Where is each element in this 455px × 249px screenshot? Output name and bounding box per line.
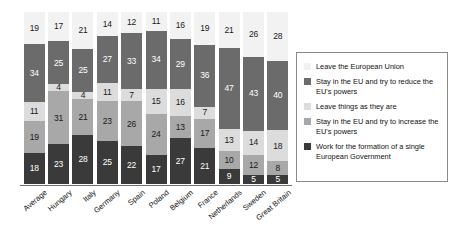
legend-item-label: Stay in the EU and try to increase the E… [316,117,440,137]
bar-segment: 16 [170,12,191,39]
bar-segment-value: 17 [200,129,209,138]
bar-segment: 5 [243,175,264,184]
bar-segment: 12 [121,12,142,33]
x-axis-label: Italy [81,188,97,204]
bar-segment: 22 [121,146,142,184]
bar-segment-value: 4 [81,92,86,99]
bar-segment: 11 [24,102,45,121]
bar-segment-value: 26 [249,30,258,39]
bar-segment: 33 [121,33,142,90]
bar-group: 264314125 [243,12,264,184]
bar-segment: 29 [170,39,191,88]
bar-segment-value: 5 [276,175,281,184]
x-axis-label: Belgium [168,188,195,213]
bar-segment-value: 18 [30,164,39,173]
bar-group: 28401885 [267,12,288,184]
bar-segment: 23 [97,101,118,141]
bar-segment: 16 [170,89,191,116]
bar-segment: 26 [121,101,142,146]
x-axis-label: Germany [92,188,122,215]
bar-segment: 4 [72,92,93,99]
bar-segment-value: 28 [273,32,282,41]
bar-segment-value: 25 [54,59,63,68]
bar-group: 193671721 [194,12,215,184]
bar-segment: 10 [219,151,240,168]
bar-segment: 28 [267,12,288,61]
bar-segment: 43 [243,57,264,131]
bar-segment-value: 27 [176,157,185,166]
bar-segment-value: 14 [103,20,112,29]
x-axis-label: Spain [126,188,147,207]
bar-segment-value: 25 [78,66,87,75]
bar-segment-value: 7 [202,108,207,117]
bar-segment: 28 [72,135,93,184]
legend-item-label: Work for the formation of a single Europ… [316,142,440,162]
legend-item: Work for the formation of a single Europ… [304,142,440,162]
bar-segment-value: 36 [200,71,209,80]
bar-segment: 18 [24,153,45,184]
bar-segment: 25 [97,141,118,184]
bar-segment-value: 17 [151,165,160,174]
bar-segment-value: 21 [200,162,209,171]
bar-segment: 36 [194,45,215,107]
bar-segment-value: 31 [54,114,63,123]
bar-segment-value: 4 [56,84,61,91]
bar-segment: 15 [146,89,167,115]
bar-segment-value: 11 [30,107,38,116]
bar-segment-value: 34 [30,69,39,78]
bar-segment-value: 16 [176,98,185,107]
bar-segment-value: 12 [249,161,258,170]
legend-item: Stay in the EU and try to increase the E… [304,117,440,137]
bar-group: 1629161327 [170,12,191,184]
legend-item-label: Leave the European Union [316,62,404,72]
bar-segment-value: 19 [30,133,39,142]
legend-swatch-increase-powers [304,118,311,125]
bar-group: 123372622 [121,12,142,184]
bar-segment: 27 [170,138,191,184]
bar-segment: 11 [97,83,118,102]
bar-segment-value: 22 [127,161,136,170]
bar-group: 1427112325 [97,12,118,184]
bar-segment-value: 12 [127,18,136,27]
bar-segment: 21 [194,148,215,184]
bar-segment: 47 [219,48,240,129]
bar-segment-value: 26 [127,120,136,129]
bar-segment: 13 [170,116,191,138]
legend-item: Leave the European Union [304,62,440,72]
bar-segment: 21 [219,12,240,48]
bar-segment-value: 43 [249,89,258,98]
bar-group: 1134152417 [146,12,167,184]
bar-segment-value: 21 [78,26,87,35]
bar-segment-value: 33 [127,57,136,66]
bar-segment-value: 19 [200,24,209,33]
bar-segment-value: 11 [103,88,111,97]
plot-area: 1934111918172543123212542128142711232512… [22,12,290,184]
bar-segment: 17 [146,155,167,184]
bar-group: 212542128 [72,12,93,184]
bar-segment-value: 28 [78,155,87,164]
bar-segment-value: 24 [151,130,160,139]
bar-segment-value: 23 [54,160,63,169]
bar-segment-value: 25 [103,158,112,167]
legend-swatch-reduce-powers [304,78,311,85]
legend-swatch-leave-as-is [304,103,311,110]
bar-segment: 40 [267,61,288,130]
bar-segment: 34 [146,31,167,89]
bar-segment: 31 [48,91,69,144]
bar-segment-value: 21 [78,113,87,122]
bar-segment: 23 [48,144,69,184]
bar-segment: 25 [48,41,69,84]
bar-segment-value: 13 [225,136,234,145]
bar-segment-value: 14 [249,138,258,147]
bar-segment: 25 [72,49,93,92]
bar-segment: 7 [194,107,215,119]
bar-segment: 24 [146,114,167,155]
legend-item: Leave things as they are [304,102,440,112]
bar-segment: 27 [97,36,118,82]
x-axis-category-labels: AverageHungaryItalyGermanySpainPolandBel… [22,186,290,248]
x-axis-label: Average [22,188,49,213]
bar-segment-value: 34 [151,55,160,64]
bar-segment: 8 [267,161,288,175]
bar-segment: 9 [219,169,240,184]
bar-segment: 12 [243,155,264,176]
